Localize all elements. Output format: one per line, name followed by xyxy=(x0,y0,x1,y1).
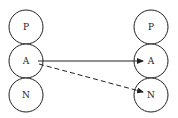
left-node-p: P xyxy=(9,10,43,44)
node-label: A xyxy=(22,56,30,66)
node-label: N xyxy=(147,90,155,100)
node-label: A xyxy=(147,56,155,66)
dashed-arrow-a-to-n xyxy=(39,64,143,92)
diagram-canvas: P A N P A N xyxy=(0,0,178,118)
node-label: N xyxy=(22,90,30,100)
node-label: P xyxy=(148,22,154,32)
right-node-p: P xyxy=(134,10,168,44)
node-label: P xyxy=(23,22,29,32)
right-node-n: N xyxy=(134,78,168,112)
left-node-a: A xyxy=(9,44,43,78)
left-node-n: N xyxy=(9,78,43,112)
